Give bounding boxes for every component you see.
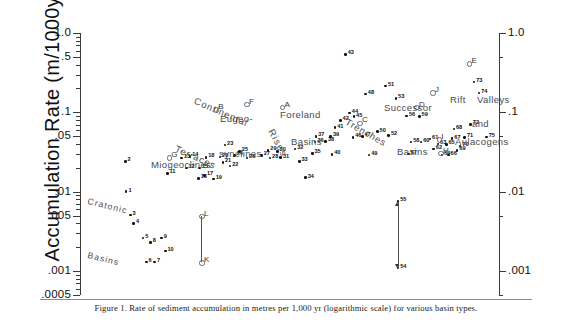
- data-point-label-55: 55: [400, 196, 406, 202]
- figure-root: Accumulation Rate (m/1000yrs) 1.0.5.1.05…: [0, 0, 572, 324]
- left-minor-tick: [76, 45, 80, 46]
- data-point-label-52: 52: [391, 130, 397, 136]
- data-point-69: [456, 149, 459, 152]
- data-point-label-4: 4: [136, 218, 139, 224]
- left-minor-tick: [76, 233, 80, 234]
- data-point-44: [348, 112, 351, 115]
- caption-divider: [40, 299, 532, 300]
- right-tick-.1: [499, 112, 506, 113]
- data-point-5: [142, 237, 145, 240]
- data-point-label-19: 19: [216, 174, 222, 180]
- data-point-60: [420, 141, 423, 144]
- data-point-52: [387, 134, 390, 137]
- data-point-label-35: 35: [314, 148, 320, 154]
- data-point-22: [229, 165, 232, 168]
- data-point-label-5: 5: [145, 233, 148, 239]
- left-minor-tick: [76, 204, 80, 205]
- data-point-51: [384, 85, 387, 88]
- right-minor-tick: [499, 295, 503, 296]
- data-point-8: [149, 241, 152, 244]
- group-label-successor: Successor: [384, 102, 432, 113]
- data-point-19: [212, 178, 215, 181]
- data-point-label-23: 23: [227, 140, 233, 146]
- data-point-4: [132, 222, 135, 225]
- figure-caption: Figure 1. Rate of sediment accumulation …: [40, 303, 532, 313]
- data-point-28: [269, 157, 272, 160]
- data-point-label-74: 74: [481, 88, 487, 94]
- plot-area: 1.0.5.1.05.01.005.001.0005 1.0.1.01.001 …: [80, 33, 500, 295]
- left-minor-tick: [76, 41, 80, 42]
- data-point-label-A: A: [285, 100, 290, 109]
- left-minor-tick: [76, 223, 80, 224]
- data-point-label-68: 68: [456, 124, 462, 130]
- data-point-label-L: L: [204, 209, 208, 218]
- data-point-46: [352, 136, 355, 139]
- data-point-6: [145, 261, 148, 264]
- data-point-11: [166, 172, 169, 175]
- data-point-16: [197, 177, 200, 180]
- data-point-label-51: 51: [388, 81, 394, 87]
- group-label-foreland: Foreland: [280, 109, 321, 120]
- data-point-58: [410, 141, 413, 144]
- left-tick-.0005: [73, 295, 80, 296]
- group-label-and: and: [472, 118, 489, 129]
- data-point-40: [331, 153, 334, 156]
- data-point-label-3: 3: [133, 210, 136, 216]
- data-point-21: [222, 161, 225, 164]
- left-tick-label-.05: .05: [54, 129, 71, 141]
- left-minor-tick: [76, 154, 80, 155]
- left-minor-tick: [76, 275, 80, 276]
- data-point-43: [344, 53, 347, 56]
- left-minor-tick: [76, 283, 80, 284]
- data-point-label-E: E: [472, 56, 477, 65]
- left-minor-tick: [76, 195, 80, 196]
- data-point-label-I: I: [441, 132, 443, 141]
- data-point-label-54: 54: [400, 263, 406, 269]
- data-point-68: [453, 128, 456, 131]
- data-point-9: [160, 237, 163, 240]
- data-point-label-F: F: [249, 97, 254, 106]
- left-tick-label-.001: .001: [48, 264, 71, 276]
- right-minor-tick: [499, 216, 503, 217]
- group-label-aulacogens: Aulacogens: [455, 136, 509, 147]
- data-point-23: [224, 144, 227, 147]
- data-point-38: [324, 140, 327, 143]
- left-minor-tick: [76, 130, 80, 131]
- left-minor-tick: [76, 88, 80, 89]
- data-point-label-8: 8: [153, 237, 156, 243]
- data-point-label-1: 1: [128, 187, 131, 193]
- left-tick-label-.01: .01: [54, 185, 71, 197]
- left-tick-label-1.0: 1.0: [54, 26, 71, 38]
- data-point-1: [125, 190, 128, 193]
- group-label-foreland-2: Basins: [291, 136, 322, 147]
- left-tick-.005: [73, 216, 80, 217]
- left-tick-1.0: [73, 33, 80, 34]
- connector-54-55-arrow-down: [395, 264, 399, 268]
- data-point-label-K: K: [204, 255, 209, 264]
- left-minor-tick: [76, 209, 80, 210]
- left-tick-.1: [73, 112, 80, 113]
- data-point-39: [329, 135, 332, 138]
- group-label-valleys: Valleys: [477, 94, 510, 105]
- data-point-label-41: 41: [337, 123, 343, 129]
- right-tick-.01: [499, 192, 506, 193]
- data-point-2: [124, 160, 127, 163]
- data-point-49: [368, 154, 371, 157]
- right-tick-label-.001: .001: [508, 264, 531, 276]
- data-point-label-34: 34: [308, 173, 314, 179]
- right-tick-.001: [499, 271, 506, 272]
- data-point-42: [339, 119, 342, 122]
- data-point-label-H: H: [443, 146, 449, 155]
- left-minor-tick: [76, 37, 80, 38]
- right-tick-1.0: [499, 33, 506, 34]
- data-point-41: [334, 126, 337, 129]
- group-label-eugeo: Eugeo-: [220, 113, 253, 124]
- data-point-53: [395, 97, 398, 100]
- data-point-label-50: 50: [380, 127, 386, 133]
- data-point-label-9: 9: [164, 233, 167, 239]
- left-tick-.001: [73, 271, 80, 272]
- data-point-label-39: 39: [333, 131, 339, 137]
- connector-K-L: [201, 216, 202, 262]
- data-point-62: [432, 148, 435, 151]
- right-tick-label-.1: .1: [508, 105, 518, 117]
